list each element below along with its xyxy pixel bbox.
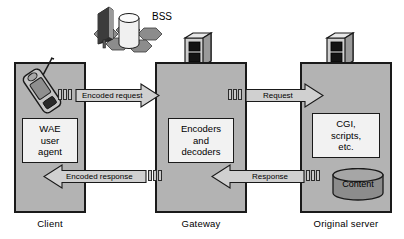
arrow-encoded-request: Encoded request bbox=[76, 84, 160, 107]
client-inner-line-3: agent bbox=[38, 146, 62, 158]
origin-inner-line-1: CGI, bbox=[336, 118, 356, 130]
arrow-label-encoded-response: Encoded response bbox=[66, 173, 133, 181]
gateway-inner-box: Encoders and decoders bbox=[168, 118, 234, 163]
gateway-inner-line-2: and bbox=[193, 135, 209, 147]
origin-inner-line-2: scripts, bbox=[331, 130, 361, 142]
connector-bars-gateway-response bbox=[148, 170, 162, 181]
connector-bars-gateway-request bbox=[228, 89, 242, 100]
diagram-canvas: BSS bbox=[0, 0, 404, 239]
origin-inner-line-3: etc. bbox=[338, 141, 353, 153]
arrow-response: Response bbox=[212, 165, 304, 188]
client-inner-line-2: user bbox=[41, 135, 59, 147]
gateway-inner-line-3: decoders bbox=[181, 146, 220, 158]
arrow-label-encoded-request: Encoded request bbox=[82, 92, 143, 100]
connector-bars-client-request bbox=[58, 89, 72, 100]
gateway-inner-line-1: Encoders bbox=[181, 123, 221, 135]
cylinder-icon bbox=[119, 14, 139, 49]
node-label-client: Client bbox=[14, 218, 86, 229]
content-label: Content bbox=[330, 179, 386, 189]
origin-inner-box: CGI, scripts, etc. bbox=[312, 113, 380, 158]
client-inner-box: WAE user agent bbox=[22, 118, 78, 163]
client-inner-line-1: WAE bbox=[39, 123, 60, 135]
arrow-request: Request bbox=[246, 84, 324, 107]
mobile-phone-icon bbox=[15, 53, 71, 119]
bss-label: BSS bbox=[152, 11, 172, 22]
arrow-encoded-response: Encoded response bbox=[44, 165, 146, 188]
connector-bars-origin-response bbox=[306, 170, 320, 181]
node-label-gateway: Gateway bbox=[155, 218, 247, 229]
node-label-origin-server: Original server bbox=[292, 218, 400, 229]
arrow-label-request: Request bbox=[263, 92, 293, 100]
arrow-label-response: Response bbox=[252, 173, 288, 181]
